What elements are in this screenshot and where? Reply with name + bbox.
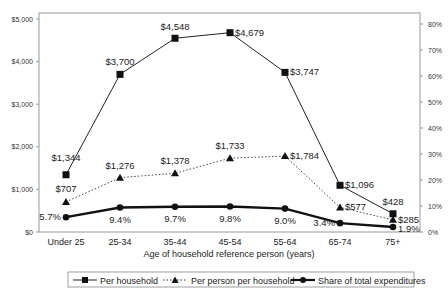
left-tick-label: $1,000 bbox=[12, 186, 34, 193]
x-axis-label: Age of household reference person (years… bbox=[143, 249, 314, 259]
circle-marker-icon bbox=[227, 203, 234, 210]
category-label: 55-64 bbox=[273, 237, 296, 247]
left-tick-label: $0 bbox=[25, 229, 33, 236]
data-label: 9.4% bbox=[109, 214, 131, 225]
category-label: 35-44 bbox=[163, 237, 186, 247]
category-label: 75+ bbox=[385, 237, 400, 247]
right-tick-label: 0% bbox=[428, 229, 438, 236]
category-label: Under 25 bbox=[47, 237, 84, 247]
square-marker-icon bbox=[227, 29, 234, 36]
right-tick-label: 30% bbox=[428, 151, 442, 158]
left-tick-label: $3,000 bbox=[12, 101, 34, 108]
svg-text:Share of total expenditures: Share of total expenditures bbox=[318, 276, 426, 286]
right-axis: 0%10%20%30%40%50%60%70%80% bbox=[420, 21, 442, 236]
data-label: 1.9% bbox=[398, 223, 420, 234]
data-label: $4,548 bbox=[160, 21, 189, 32]
circle-marker-icon bbox=[337, 220, 344, 227]
svg-text:Per person per household: Per person per household bbox=[191, 276, 295, 286]
category-label: 45-54 bbox=[218, 237, 241, 247]
circle-marker-icon bbox=[282, 205, 289, 212]
square-marker-icon bbox=[117, 71, 124, 78]
data-label: $577 bbox=[345, 201, 366, 212]
right-tick-label: 50% bbox=[428, 99, 442, 106]
data-label: $428 bbox=[382, 196, 403, 207]
right-tick-label: 70% bbox=[428, 47, 442, 54]
data-label: 9.8% bbox=[219, 213, 241, 224]
svg-text:Per household: Per household bbox=[100, 276, 158, 286]
circle-marker-icon bbox=[300, 277, 306, 283]
data-label: $1,096 bbox=[345, 179, 374, 190]
square-marker-icon bbox=[282, 69, 289, 76]
data-label: $3,747 bbox=[290, 66, 319, 77]
right-tick-label: 40% bbox=[428, 125, 442, 132]
square-marker-icon bbox=[172, 35, 179, 42]
data-label: $4,679 bbox=[235, 27, 264, 38]
data-label: $1,733 bbox=[215, 140, 244, 151]
square-marker-icon bbox=[337, 182, 344, 189]
left-axis: $0$1,000$2,000$3,000$4,000$5,000 bbox=[12, 16, 39, 236]
circle-marker-icon bbox=[117, 204, 124, 211]
circle-marker-icon bbox=[172, 203, 179, 210]
left-tick-label: $4,000 bbox=[12, 58, 34, 65]
square-marker-icon bbox=[63, 171, 70, 178]
legend: Per household Per person per household S… bbox=[68, 272, 426, 287]
chart: $0$1,000$2,000$3,000$4,000$5,000 0%10%20… bbox=[0, 0, 448, 294]
square-marker-icon bbox=[82, 277, 88, 283]
right-tick-label: 20% bbox=[428, 177, 442, 184]
circle-marker-icon bbox=[63, 214, 70, 221]
plot-area bbox=[39, 13, 420, 232]
category-label: 25-34 bbox=[108, 237, 131, 247]
right-tick-label: 80% bbox=[428, 21, 442, 28]
right-tick-label: 60% bbox=[428, 73, 442, 80]
data-label: $3,700 bbox=[105, 56, 134, 67]
data-label: $1,784 bbox=[290, 150, 319, 161]
data-label: 3.4% bbox=[313, 217, 335, 228]
left-tick-label: $2,000 bbox=[12, 143, 34, 150]
data-label: $1,378 bbox=[160, 155, 189, 166]
category-label: 65-74 bbox=[328, 237, 351, 247]
data-label: 9.0% bbox=[274, 215, 296, 226]
data-label: 5.7% bbox=[39, 211, 61, 222]
left-tick-label: $5,000 bbox=[12, 16, 34, 23]
data-label: $707 bbox=[55, 183, 76, 194]
x-axis-categories: Under 2525-3435-4445-5455-6465-7475+ bbox=[47, 237, 400, 247]
right-tick-label: 10% bbox=[428, 203, 442, 210]
data-label: 9.7% bbox=[164, 213, 186, 224]
data-label: $1,344 bbox=[51, 152, 80, 163]
circle-marker-icon bbox=[390, 224, 397, 231]
data-label: $1,276 bbox=[105, 160, 134, 171]
